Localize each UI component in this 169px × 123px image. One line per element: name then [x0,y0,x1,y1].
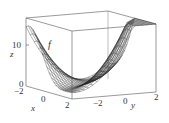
x-axis-label: x [31,104,35,113]
y-tick-0: 0 [123,97,128,106]
surface-plot [0,0,169,123]
z-axis-label: z [10,50,14,59]
y-tick-2: 2 [154,93,159,102]
x-tick-0: 0 [41,95,46,104]
x-tick-neg2: −2 [14,87,24,96]
function-label: f [48,40,51,50]
x-tick-2: 2 [65,101,70,110]
y-tick-neg2: −2 [93,99,103,108]
y-axis-label: y [131,101,135,110]
